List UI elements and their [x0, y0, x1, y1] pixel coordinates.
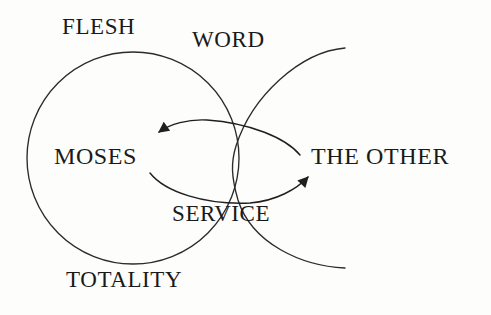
label-moses: MOSES	[54, 144, 137, 168]
label-service: SERVICE	[172, 202, 270, 225]
label-word: WORD	[192, 28, 265, 51]
label-flesh: FLESH	[62, 15, 135, 38]
diagram-canvas: FLESH WORD MOSES THE OTHER SERVICE TOTAL…	[0, 0, 491, 315]
label-the-other: THE OTHER	[311, 144, 449, 168]
label-totality: TOTALITY	[66, 268, 182, 291]
arrow-arc-to-the-other	[150, 173, 308, 203]
arrow-arc-to-moses	[159, 120, 300, 155]
